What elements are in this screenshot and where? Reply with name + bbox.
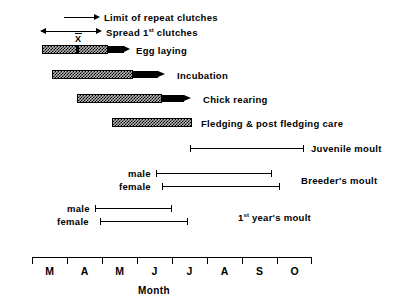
first-years-moult-female-line: [100, 221, 188, 222]
spread-first-clutches-label: Spread 1st clutches: [106, 27, 198, 38]
spread-first-clutches-label-tail: clutches: [154, 27, 198, 38]
first-years-moult-male-sex-label: male: [67, 204, 90, 214]
x-axis-tick-3: [137, 257, 138, 264]
limit-repeat-clutches-label: Limit of repeat clutches: [104, 13, 218, 23]
x-axis-label-may: M: [102, 266, 137, 277]
breeders-moult-female-sex-label: female: [119, 182, 151, 192]
x-axis-tick-start: [32, 257, 33, 264]
breeders-moult-female-line: [162, 186, 280, 187]
limit-repeat-clutches-arrow-line: [64, 17, 94, 18]
breeders-moult-male-cap-end: [271, 170, 272, 177]
mean-laying-date-symbol: X: [72, 33, 84, 44]
x-axis-tick-end: [311, 257, 312, 264]
x-axis-label-august: A: [207, 266, 242, 277]
x-axis-tick-7: [277, 257, 278, 264]
breeding-cycle-timeline-chart: Limit of repeat clutches Spread 1st clut…: [0, 0, 396, 305]
first-years-moult-label: 1st year's moult: [238, 212, 311, 223]
first-years-moult-label-tail: year's moult: [249, 212, 311, 223]
incubation-bar-hatched: [52, 70, 133, 79]
x-axis-tick-2: [102, 257, 103, 264]
x-axis-tick-5: [207, 257, 208, 264]
incubation-label: Incubation: [177, 71, 228, 81]
first-years-moult-female-sex-label: female: [57, 217, 89, 227]
breeders-moult-male-sex-label: male: [128, 169, 151, 179]
breeders-moult-female-cap-end: [279, 183, 280, 190]
spread-first-clutches-arrowhead-right: [96, 28, 102, 34]
first-years-moult-female-cap-end: [187, 218, 188, 225]
x-axis-tick-1: [67, 257, 68, 264]
chick-rearing-bar-taper: [184, 95, 191, 101]
x-axis-label-october: O: [277, 266, 312, 277]
mean-laying-date-letter: X: [75, 34, 81, 44]
egg-laying-bar-taper: [124, 46, 130, 52]
x-axis-tick-4: [172, 257, 173, 264]
chick-rearing-label: Chick rearing: [203, 95, 268, 105]
x-axis-label-july: J: [172, 266, 207, 277]
spread-first-clutches-label-main: Spread 1: [106, 27, 149, 38]
fledging-label: Fledging & post fledging care: [201, 119, 343, 129]
x-axis-tick-6: [242, 257, 243, 264]
egg-laying-mean-divider: [76, 45, 79, 54]
x-axis-label-june: J: [137, 266, 172, 277]
limit-repeat-clutches-arrowhead-right: [94, 14, 100, 20]
juvenile-moult-line: [190, 148, 304, 149]
breeders-moult-male-line: [156, 173, 272, 174]
x-axis-title: Month: [138, 285, 170, 296]
first-years-moult-male-line: [95, 208, 172, 209]
breeders-moult-label: Breeder's moult: [301, 176, 377, 186]
x-axis-label-march: M: [32, 266, 67, 277]
x-axis-label-april: A: [67, 266, 102, 277]
egg-laying-label: Egg laying: [136, 46, 187, 56]
first-years-moult-male-cap-end: [171, 205, 172, 212]
juvenile-moult-cap-end: [303, 145, 304, 152]
chick-rearing-bar-hatched: [77, 94, 162, 103]
egg-laying-bar-hatched: [42, 45, 108, 54]
juvenile-moult-label: Juvenile moult: [311, 144, 382, 154]
x-axis-label-september: S: [242, 266, 277, 277]
incubation-bar-taper: [158, 71, 165, 77]
fledging-bar-hatched: [112, 118, 192, 127]
